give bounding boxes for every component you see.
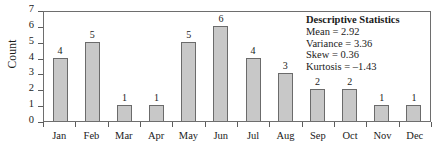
bar-slot: 3	[269, 12, 301, 121]
bar: 3	[278, 73, 293, 121]
bar: 2	[342, 89, 357, 121]
bar: 4	[53, 58, 68, 121]
bar-slot: 1	[141, 12, 173, 121]
x-axis-labels: JanFebMarAprMayJunJulAugSepOctNovDec	[43, 130, 431, 143]
x-tick-label: Apr	[140, 130, 172, 143]
x-tick-label: Jan	[43, 130, 75, 143]
bar-value-label: 5	[90, 30, 95, 40]
bar-slot: 4	[44, 12, 76, 121]
y-tick-label: 7	[4, 4, 34, 15]
bar-value-label: 1	[122, 93, 127, 103]
x-axis-ticks	[43, 122, 431, 128]
bar-slot: 4	[237, 12, 269, 121]
y-axis-ticks: 01234567	[0, 0, 43, 133]
bar-value-label: 2	[347, 77, 352, 87]
bar-value-label: 6	[218, 14, 223, 24]
x-tick-mark	[366, 122, 367, 127]
bar-chart: Count 01234567 451156432211 JanFebMarApr…	[0, 0, 443, 162]
x-tick-mark	[334, 122, 335, 127]
x-tick-mark	[43, 122, 44, 127]
bar: 1	[149, 105, 164, 121]
x-tick-label: May	[172, 130, 204, 143]
y-tick-label: 2	[4, 83, 34, 94]
x-tick-mark	[237, 122, 238, 127]
x-tick-mark	[205, 122, 206, 127]
bar-value-label: 1	[411, 93, 416, 103]
stats-line-mean: Mean = 2.92	[306, 26, 426, 38]
x-tick-label: Aug	[269, 130, 301, 143]
x-tick-label: Jul	[237, 130, 269, 143]
x-tick-label: Feb	[75, 130, 107, 143]
x-tick-mark	[302, 122, 303, 127]
bar-value-label: 2	[315, 77, 320, 87]
bar-slot: 1	[108, 12, 140, 121]
x-tick-mark	[108, 122, 109, 127]
bar-value-label: 4	[251, 46, 256, 56]
y-tick-label: 4	[4, 52, 34, 63]
y-tick-label: 1	[4, 99, 34, 110]
bar-value-label: 4	[58, 46, 63, 56]
bar: 6	[213, 26, 228, 121]
stats-line-skew: Skew = 0.36	[306, 49, 426, 61]
x-tick-label: Oct	[334, 130, 366, 143]
x-tick-label: Dec	[399, 130, 431, 143]
bar: 1	[406, 105, 421, 121]
stats-line-variance: Variance = 3.36	[306, 38, 426, 50]
bar-value-label: 3	[283, 61, 288, 71]
bar-slot: 6	[205, 12, 237, 121]
bar: 4	[246, 58, 261, 121]
bar: 2	[310, 89, 325, 121]
y-tick-label: 0	[4, 115, 34, 126]
x-tick-mark	[399, 122, 400, 127]
bar-value-label: 1	[154, 93, 159, 103]
x-tick-mark	[140, 122, 141, 127]
bar-value-label: 5	[186, 30, 191, 40]
y-tick-label: 6	[4, 20, 34, 31]
descriptive-statistics-annotation: Descriptive Statistics Mean = 2.92 Varia…	[306, 14, 426, 72]
x-tick-mark	[75, 122, 76, 127]
bar: 1	[374, 105, 389, 121]
x-tick-label: Mar	[108, 130, 140, 143]
y-tick-label: 5	[4, 36, 34, 47]
y-tick-label: 3	[4, 67, 34, 78]
x-tick-mark	[431, 122, 432, 127]
x-tick-label: Sep	[302, 130, 334, 143]
bar: 5	[181, 42, 196, 121]
bar: 5	[85, 42, 100, 121]
x-tick-label: Jun	[205, 130, 237, 143]
x-tick-label: Nov	[366, 130, 398, 143]
bar-slot: 5	[173, 12, 205, 121]
stats-line-kurtosis: Kurtosis = –1.43	[306, 61, 426, 73]
bar: 1	[117, 105, 132, 121]
stats-title: Descriptive Statistics	[306, 14, 426, 26]
x-tick-mark	[269, 122, 270, 127]
bar-value-label: 1	[379, 93, 384, 103]
x-tick-mark	[172, 122, 173, 127]
bar-slot: 5	[76, 12, 108, 121]
